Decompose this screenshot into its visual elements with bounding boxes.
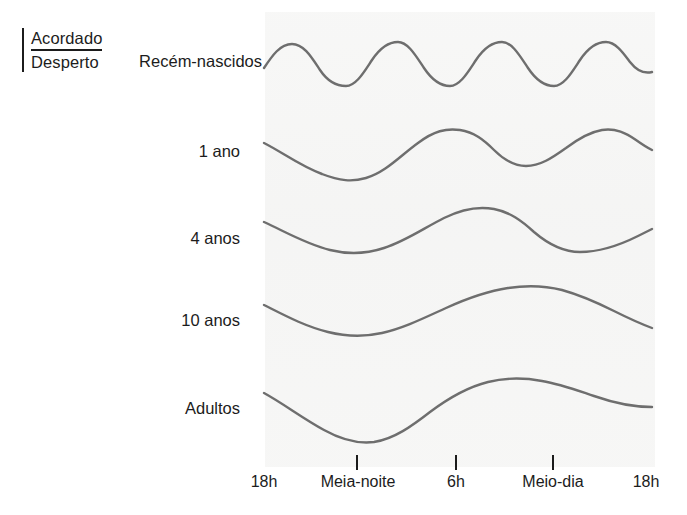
x-tick-label-meio-dia: Meio-dia: [497, 473, 609, 491]
x-tick-label-meia-noite: Meia-noite: [300, 473, 416, 491]
x-tick-label-18h-end: 18h: [618, 473, 674, 491]
x-axis-tick-marks: [0, 0, 687, 515]
x-tick-label-6h: 6h: [428, 473, 484, 491]
sleep-rhythm-figure: Acordado Desperto Recém-nascidos 1 ano 4…: [0, 0, 687, 515]
x-tick-label-18h-start: 18h: [236, 473, 292, 491]
